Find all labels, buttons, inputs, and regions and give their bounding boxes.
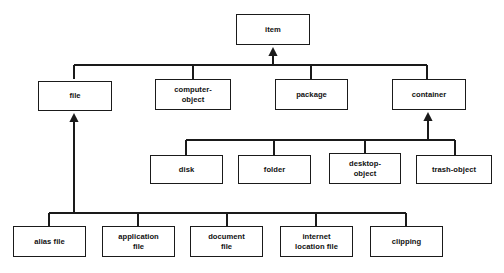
class-node-file[interactable]: file [38, 81, 112, 111]
class-node-label: trash-object [430, 165, 478, 175]
generalization-arrow-icon-bus-file [69, 113, 78, 122]
class-node-alias-file[interactable]: alias file [13, 226, 86, 257]
class-node-application-file[interactable]: application file [102, 226, 175, 257]
class-node-label: disk [177, 165, 196, 175]
class-node-container[interactable]: container [392, 79, 466, 110]
class-hierarchy-diagram: itemfilecomputer- objectpackagecontainer… [0, 0, 504, 273]
class-node-internet-location-file[interactable]: internet location file [280, 226, 353, 257]
class-node-label: application file [116, 232, 161, 251]
class-node-label: file [67, 91, 82, 101]
class-node-trash-object[interactable]: trash-object [416, 155, 492, 184]
generalization-arrow-icon-bus-item [268, 47, 277, 56]
class-node-label: container [410, 90, 449, 100]
class-node-disk[interactable]: disk [150, 155, 223, 184]
class-node-label: package [294, 90, 329, 100]
generalization-arrow-icon-bus-container [423, 112, 432, 121]
class-node-folder[interactable]: folder [238, 155, 311, 184]
class-node-label: internet location file [293, 232, 340, 251]
class-node-label: desktop- object [347, 159, 383, 178]
class-node-label: computer- object [172, 85, 214, 104]
class-node-package[interactable]: package [275, 79, 348, 110]
class-node-item[interactable]: item [236, 14, 310, 45]
class-node-label: item [263, 25, 283, 35]
class-node-label: clipping [390, 237, 424, 247]
class-node-document-file[interactable]: document file [190, 226, 263, 257]
class-node-clipping[interactable]: clipping [370, 226, 443, 257]
class-node-label: folder [262, 165, 287, 175]
class-node-label: document file [206, 232, 247, 251]
class-node-desktop-object[interactable]: desktop- object [329, 153, 401, 184]
class-node-computer-object[interactable]: computer- object [155, 79, 231, 110]
class-node-label: alias file [32, 237, 66, 247]
